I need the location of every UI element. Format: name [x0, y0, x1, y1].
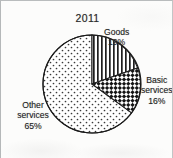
pie-label-goods: Goods 19% [104, 27, 129, 48]
pie-label-other-services-percent: 65% [7, 121, 59, 131]
pie-label-basic-services-name-line2: services [141, 85, 173, 95]
pie-label-basic-services-percent: 16% [141, 96, 173, 106]
pie-label-goods-name: Goods [104, 27, 129, 37]
pie-label-other-services-name-line1: Other [7, 100, 59, 110]
pie-label-basic-services-name-line1: Basic [141, 75, 173, 85]
pie-label-basic-services: Basic services 16% [141, 75, 173, 106]
pie-label-goods-percent: 19% [104, 37, 129, 47]
pie-label-other-services-name-line2: services [7, 110, 59, 120]
pie-chart-figure: 2011 [0, 0, 173, 158]
pie-label-other-services: Other services 65% [7, 100, 59, 131]
